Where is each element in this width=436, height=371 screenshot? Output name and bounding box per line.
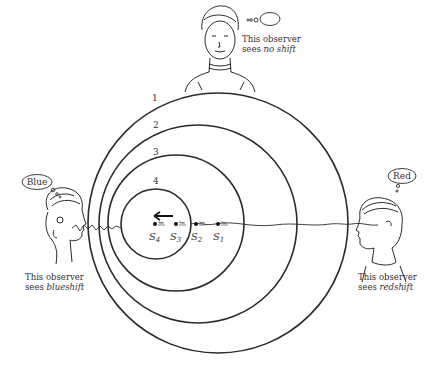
left-caption-line1: This observer — [25, 272, 84, 282]
top-caption-line1: This observer — [242, 34, 301, 44]
blueshift-wave — [72, 225, 121, 231]
source-label-s4: S4 — [149, 231, 160, 244]
source-s1 — [216, 222, 228, 226]
source-label-s2: S2 — [191, 231, 203, 244]
source-s4 — [153, 222, 165, 226]
wavefront-label-1: 1 — [152, 93, 158, 103]
left-observer-caption: This observer sees blueshift — [25, 272, 84, 292]
right-caption-line1: This observer — [358, 272, 417, 282]
left-caption-line2: sees blueshift — [25, 282, 84, 292]
source-label-s3: S3 — [170, 231, 182, 244]
wavefront-label-3: 3 — [153, 147, 159, 157]
source-label-s1: S1 — [213, 231, 224, 244]
right-observer-caption: This observer sees redshift — [358, 272, 417, 292]
left-thought-text: Blue — [27, 177, 48, 187]
motion-arrow-icon — [154, 212, 173, 220]
right-thought-text: Red — [393, 171, 411, 181]
doppler-diagram: 1 2 3 4 S4 — [0, 0, 436, 371]
wavefront-label-2: 2 — [153, 120, 159, 130]
right-caption-line2: sees redshift — [358, 282, 417, 292]
top-caption-line2: sees no shift — [242, 44, 301, 54]
left-observer-figure — [46, 188, 86, 264]
right-observer-figure — [356, 198, 406, 282]
top-observer-caption: This observer sees no shift — [242, 34, 301, 54]
source-s3 — [174, 222, 186, 226]
top-thought-bubble — [247, 13, 280, 26]
wavefront-label-4: 4 — [153, 176, 159, 186]
